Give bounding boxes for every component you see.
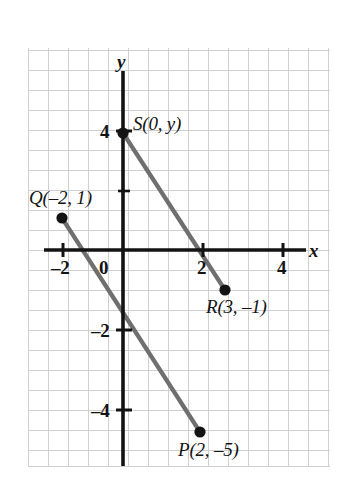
x-tick-label-0: 0	[99, 258, 108, 277]
point-r	[219, 284, 230, 295]
coordinate-plane-figure: y x 4 –2 –4 –2 0 2 4 S(0, y) Q(–2, 1) R(…	[0, 0, 347, 482]
segment-sr	[123, 133, 225, 290]
y-axis-label: y	[117, 52, 125, 71]
point-p	[194, 426, 205, 437]
y-tick-label-4: 4	[100, 122, 109, 141]
point-label-p: P(2, –5)	[178, 440, 239, 459]
plot-canvas	[0, 0, 347, 482]
x-axis-label: x	[309, 241, 319, 260]
point-label-q: Q(–2, 1)	[29, 188, 92, 207]
point-label-s: S(0, y)	[133, 114, 181, 133]
point-q	[56, 212, 67, 223]
y-tick-label-minus-2: –2	[91, 321, 109, 340]
x-tick-label-2: 2	[197, 258, 206, 277]
x-tick-label-4: 4	[277, 258, 286, 277]
y-tick-label-minus-4: –4	[91, 401, 109, 420]
point-s	[117, 127, 128, 138]
point-label-r: R(3, –1)	[206, 297, 267, 316]
x-tick-label-minus-2: –2	[51, 258, 69, 277]
